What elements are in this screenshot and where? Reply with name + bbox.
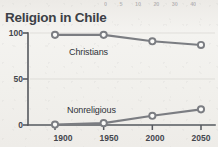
chart-screenshot: 0 5 10 20 30 40 Religion in Chile 100 50… [0,0,218,147]
data-point-marker [198,42,204,48]
line-chart-plot [0,0,218,147]
data-point-marker [52,121,58,127]
x-axis-tick-1900: 1900 [46,133,80,143]
data-point-marker [149,38,155,44]
y-axis-tick-100: 100 [1,28,23,38]
data-point-marker [149,113,155,119]
data-point-marker [101,32,107,38]
x-axis-tick-1950: 1950 [92,133,126,143]
x-axis-tick-2000: 2000 [138,133,172,143]
data-point-marker [101,120,107,126]
data-point-marker [198,106,204,112]
series-label-nonreligious: Nonreligious [67,105,116,115]
series-line-christians [55,35,201,45]
series-label-christians: Christians [69,47,108,57]
x-axis-tick-2050: 2050 [184,133,218,143]
data-point-marker [52,32,58,38]
y-axis-tick-50: 50 [1,74,23,84]
y-axis-tick-0: 0 [1,120,23,130]
